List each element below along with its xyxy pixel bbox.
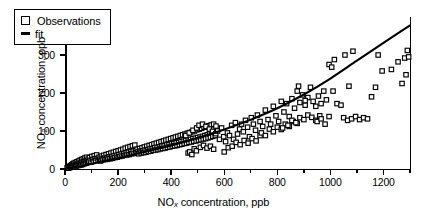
observation-marker xyxy=(271,130,275,134)
x-tick-major xyxy=(224,170,225,175)
observation-marker xyxy=(274,114,278,118)
observation-marker xyxy=(406,55,410,59)
observation-marker xyxy=(295,89,299,93)
observation-marker xyxy=(294,120,298,124)
x-tick-label: 800 xyxy=(269,176,286,188)
x-axis-title-text: NOx concentration, ppb xyxy=(158,196,270,208)
x-tick-label: 1200 xyxy=(372,176,395,188)
observation-marker xyxy=(347,84,351,88)
x-tick-minor xyxy=(250,170,251,173)
observation-marker xyxy=(369,95,373,99)
observation-marker xyxy=(311,99,315,103)
observation-marker xyxy=(268,122,272,126)
observation-marker xyxy=(223,139,227,143)
observation-marker xyxy=(271,104,275,108)
x-tick-major xyxy=(330,170,331,175)
legend-entry-fit: fit xyxy=(21,27,101,40)
observation-marker xyxy=(324,98,328,102)
observation-marker xyxy=(365,117,369,121)
observation-marker xyxy=(286,123,290,127)
x-tick-major xyxy=(277,170,278,175)
observation-marker xyxy=(263,108,267,112)
x-tick-minor xyxy=(409,170,410,173)
observation-marker xyxy=(323,122,327,126)
observation-marker xyxy=(214,124,218,128)
observation-marker xyxy=(246,141,250,145)
x-tick-major xyxy=(117,170,118,175)
observation-marker xyxy=(251,122,255,126)
observation-marker xyxy=(263,133,267,137)
observation-marker xyxy=(211,147,215,151)
observation-marker xyxy=(266,117,270,121)
observation-marker xyxy=(298,100,302,104)
observation-marker xyxy=(235,132,239,136)
plot-area xyxy=(65,17,410,169)
observation-marker xyxy=(280,126,284,130)
observation-marker xyxy=(316,94,320,98)
observation-marker xyxy=(292,106,296,110)
data-canvas xyxy=(65,17,410,169)
observation-marker xyxy=(254,139,258,143)
observation-marker xyxy=(322,89,326,93)
x-tick-major xyxy=(383,170,384,175)
x-axis-title: NOx concentration, ppb xyxy=(0,196,427,209)
x-tick-minor xyxy=(91,170,92,173)
observation-marker xyxy=(400,81,404,85)
observation-marker xyxy=(380,69,384,73)
x-tick-label: 200 xyxy=(110,176,127,188)
x-tick-minor xyxy=(303,170,304,173)
legend-entry-observations: Observations xyxy=(21,14,101,27)
x-tick-label: 400 xyxy=(163,176,180,188)
y-tick-label: 0 xyxy=(49,163,55,175)
observation-marker xyxy=(303,103,307,107)
observation-marker xyxy=(253,128,257,132)
chart-figure: 0100200300400 020040060080010001200 Obse… xyxy=(0,0,427,219)
observation-marker xyxy=(343,53,347,57)
observation-marker xyxy=(319,117,323,121)
y-axis-title-wrap: NO2 concentration, ppb xyxy=(12,0,32,186)
observation-marker xyxy=(245,125,249,129)
x-tick-label: 1000 xyxy=(319,176,342,188)
observation-marker xyxy=(330,65,334,69)
observation-marker xyxy=(319,101,323,105)
observation-marker xyxy=(296,84,300,88)
observation-marker xyxy=(339,103,343,107)
y-axis-title-text: NO2 concentration, ppb xyxy=(35,37,47,149)
x-tick-major xyxy=(170,170,171,175)
observation-marker xyxy=(331,89,335,93)
observation-marker xyxy=(351,49,355,53)
observation-marker xyxy=(276,119,280,123)
observation-marker xyxy=(396,60,400,64)
observation-marker xyxy=(282,110,286,114)
observation-marker xyxy=(261,124,265,128)
x-tick-label: 600 xyxy=(216,176,233,188)
x-tick-minor xyxy=(197,170,198,173)
observation-marker xyxy=(302,117,306,121)
y-axis-title: NO2 concentration, ppb xyxy=(35,3,48,183)
observation-marker xyxy=(241,130,245,134)
observation-marker xyxy=(376,53,380,57)
observation-marker xyxy=(190,152,194,156)
observation-marker xyxy=(404,73,408,77)
x-tick-minor xyxy=(144,170,145,173)
observation-markers xyxy=(65,48,411,170)
observation-marker xyxy=(327,114,331,118)
x-tick-label: 0 xyxy=(62,176,68,188)
observation-marker xyxy=(373,85,377,89)
observation-marker xyxy=(279,99,283,103)
observation-marker xyxy=(405,48,409,52)
observation-marker xyxy=(314,104,318,108)
x-tick-minor xyxy=(356,170,357,173)
observation-marker xyxy=(332,57,336,61)
observation-marker xyxy=(389,67,393,71)
observation-marker xyxy=(258,119,262,123)
observation-marker xyxy=(303,98,307,102)
